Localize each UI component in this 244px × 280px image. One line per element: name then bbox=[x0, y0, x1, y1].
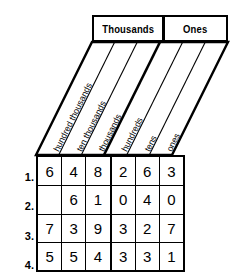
place-value-chart: Thousands Ones hundred thousands ten tho… bbox=[0, 0, 244, 280]
digit-cell[interactable]: 3 bbox=[61, 215, 85, 242]
digit-cell[interactable]: 2 bbox=[110, 157, 135, 185]
place-label-band: hundred thousands ten thousands thousand… bbox=[36, 42, 185, 155]
digit-cell[interactable]: 4 bbox=[135, 186, 159, 213]
digit-cell[interactable]: 8 bbox=[85, 157, 109, 185]
group-header-thousands: Thousands bbox=[92, 15, 164, 42]
group-header-thousands-label: Thousands bbox=[102, 23, 154, 35]
group-header-ones-label: Ones bbox=[183, 23, 207, 35]
digit-cell[interactable]: 7 bbox=[38, 215, 61, 242]
digit-cell[interactable]: 6 bbox=[135, 157, 159, 185]
digit-cell[interactable]: 4 bbox=[61, 157, 85, 185]
row-number-1: 1. bbox=[14, 171, 34, 183]
digit-cell[interactable]: 3 bbox=[110, 215, 135, 242]
digit-cell[interactable]: 2 bbox=[135, 215, 159, 242]
table-row: 6 4 8 2 6 3 bbox=[38, 157, 183, 185]
digit-cell[interactable]: 5 bbox=[38, 243, 61, 270]
digit-cell[interactable]: 0 bbox=[159, 186, 183, 213]
table-row: 5 5 4 3 3 1 bbox=[38, 242, 183, 270]
group-header-ones: Ones bbox=[163, 15, 228, 42]
row-number-3: 3. bbox=[14, 230, 34, 242]
digit-cell[interactable] bbox=[38, 186, 61, 213]
table-row: 6 1 0 4 0 bbox=[38, 185, 183, 213]
row-number-2: 2. bbox=[14, 200, 34, 212]
digit-cell[interactable]: 1 bbox=[85, 186, 109, 213]
digit-cell[interactable]: 3 bbox=[159, 157, 183, 185]
digit-cell[interactable]: 6 bbox=[61, 186, 85, 213]
digit-cell[interactable]: 4 bbox=[85, 243, 109, 270]
digit-cell[interactable]: 3 bbox=[135, 243, 159, 270]
digit-cell[interactable]: 3 bbox=[110, 243, 135, 270]
digit-cell[interactable]: 9 bbox=[85, 215, 109, 242]
digit-cell[interactable]: 1 bbox=[159, 243, 183, 270]
row-number-4: 4. bbox=[14, 259, 34, 271]
digit-cell[interactable]: 5 bbox=[61, 243, 85, 270]
digit-cell[interactable]: 7 bbox=[159, 215, 183, 242]
digit-cell[interactable]: 0 bbox=[110, 186, 135, 213]
digit-cell[interactable]: 6 bbox=[38, 157, 61, 185]
digit-grid: 6 4 8 2 6 3 6 1 0 4 0 7 3 9 3 2 7 5 5 4 bbox=[36, 155, 185, 272]
table-row: 7 3 9 3 2 7 bbox=[38, 214, 183, 242]
